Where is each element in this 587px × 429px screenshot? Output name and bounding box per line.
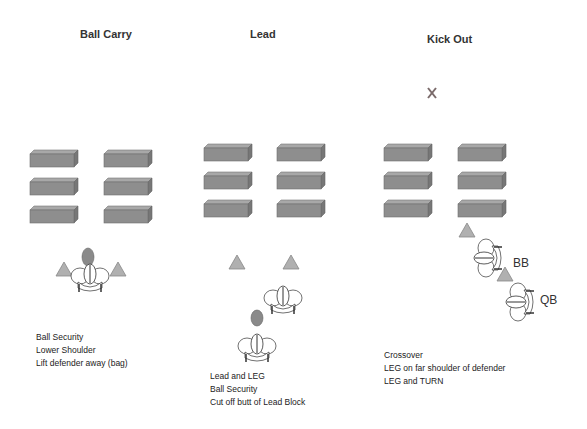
football-icon <box>251 310 263 326</box>
note-line: Ball Security <box>210 383 305 396</box>
note-line: Cut off butt of Lead Block <box>210 396 305 409</box>
panel-title-ball-carry: Ball Carry <box>80 28 132 40</box>
note-line: Ball Security <box>36 331 128 344</box>
notes-kick-out: Crossover LEG on far shoulder of defende… <box>384 349 505 388</box>
note-line: Lead and LEG <box>210 370 305 383</box>
notes-lead: Lead and LEG Ball Security Cut off butt … <box>210 370 305 409</box>
blocking-bag-icon <box>30 150 152 223</box>
cone-icon <box>229 255 299 269</box>
note-line: Crossover <box>384 349 505 362</box>
football-icon <box>82 248 94 266</box>
note-line: LEG and TURN <box>384 375 505 388</box>
player-icon <box>474 239 502 277</box>
note-line: Lower Shoulder <box>36 344 128 357</box>
player-icon <box>264 286 302 314</box>
player-icon <box>71 264 109 292</box>
player-icon <box>506 283 534 321</box>
panel-title-kick-out: Kick Out <box>427 33 472 45</box>
blocking-bag-icon <box>204 144 325 217</box>
x-mark-icon <box>428 88 436 98</box>
label-qb: QB <box>540 293 557 307</box>
blocking-bag-icon <box>384 144 506 217</box>
notes-ball-carry: Ball Security Lower Shoulder Lift defend… <box>36 331 128 370</box>
label-bb: BB <box>513 256 529 270</box>
note-line: Lift defender away (bag) <box>36 357 128 370</box>
player-icon <box>238 334 276 362</box>
panel-title-lead: Lead <box>250 28 276 40</box>
note-line: LEG on far shoulder of defender <box>384 362 505 375</box>
